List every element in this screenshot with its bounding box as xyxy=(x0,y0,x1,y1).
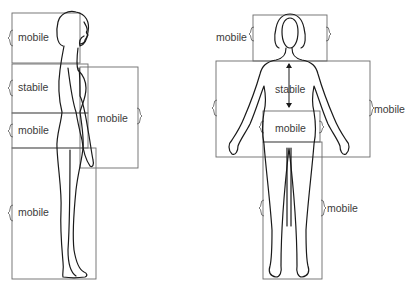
front-hip-label: mobile xyxy=(275,122,306,134)
side-leg-label: mobile xyxy=(18,206,49,218)
front-inner-leg-line xyxy=(287,148,291,226)
front-torso-label: stabile xyxy=(275,83,306,95)
side-arm-label: mobile xyxy=(97,112,128,124)
arrow-down-icon xyxy=(286,103,292,108)
side-torso-label: stabile xyxy=(18,81,49,93)
front-leg-label: mobile xyxy=(327,202,358,214)
side-head-label: mobile xyxy=(18,31,49,43)
front-head-box xyxy=(253,15,327,61)
side-face-outline xyxy=(80,22,88,44)
side-hair-outline xyxy=(57,11,89,46)
side-body-outline xyxy=(57,46,87,278)
front-leg-box xyxy=(263,142,322,279)
side-leg-divide xyxy=(68,150,76,276)
side-view-figure: mobile stabile mobile mobile mobile xyxy=(8,11,142,279)
front-hair-outline xyxy=(275,14,305,48)
side-hip-label: mobile xyxy=(18,124,49,136)
arrow-up-icon xyxy=(286,63,292,68)
front-view-figure: mobile stabile mobile mobile mobile xyxy=(212,14,405,279)
front-head-label: mobile xyxy=(216,31,247,43)
front-face-outline xyxy=(282,18,298,48)
body-segment-diagram: mobile stabile mobile mobile mobile mobi… xyxy=(0,0,412,289)
front-arms-label: mobile xyxy=(374,103,405,115)
